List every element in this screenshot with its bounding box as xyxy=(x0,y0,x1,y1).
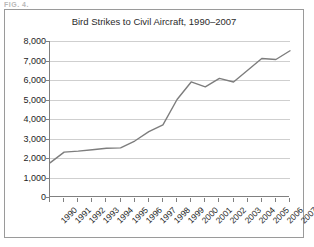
chart-figure: Bird Strikes to Civil Aircraft, 1990–200… xyxy=(4,9,304,238)
scan-header-text: FIG. 4. xyxy=(4,0,84,9)
x-axis-labels: 1990199119921993199419951996199719981999… xyxy=(5,202,305,238)
figure-page: FIG. 4. Bird Strikes to Civil Aircraft, … xyxy=(0,0,314,247)
y-tick-label: 7,000 xyxy=(8,56,46,66)
y-tick-label: 2,000 xyxy=(8,153,46,163)
line-series xyxy=(50,41,290,197)
plot-area xyxy=(49,41,289,197)
y-tick-label: 6,000 xyxy=(8,75,46,85)
y-tick-label: 0 xyxy=(8,192,46,202)
y-tick-label: 8,000 xyxy=(8,36,46,46)
y-tick-label: 3,000 xyxy=(8,134,46,144)
y-axis: 01,0002,0003,0004,0005,0006,0007,0008,00… xyxy=(5,41,46,197)
y-tick-label: 1,000 xyxy=(8,173,46,183)
y-tick-label: 5,000 xyxy=(8,95,46,105)
series-line xyxy=(50,51,290,163)
y-tick-label: 4,000 xyxy=(8,114,46,124)
chart-title: Bird Strikes to Civil Aircraft, 1990–200… xyxy=(5,16,303,27)
